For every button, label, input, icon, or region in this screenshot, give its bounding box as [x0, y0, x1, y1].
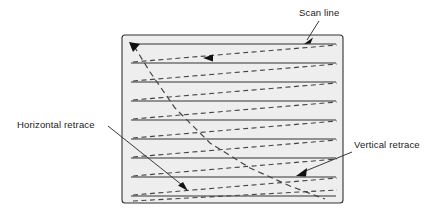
diagram-canvas: Scan line Horizontal retrace Vertical re… — [0, 0, 440, 220]
scan-line-label: Scan line — [299, 7, 339, 18]
screen-rectangle — [122, 35, 343, 203]
horizontal-retrace-label: Horizontal retrace — [17, 119, 95, 130]
raster-scan-diagram: Scan line Horizontal retrace Vertical re… — [0, 0, 440, 220]
vertical-retrace-label: Vertical retrace — [354, 139, 420, 150]
